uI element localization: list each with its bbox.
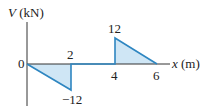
origin-label: 0 [18,56,25,71]
shear-diagram: V (kN) 0 2 −12 12 4 6 x (m) [0,0,208,106]
x-axis-label: x (m) [171,56,200,71]
tick-label-6: 6 [153,68,160,83]
tick-label-2: 2 [67,47,74,62]
value-label-12: 12 [108,21,121,36]
tick-label-4: 4 [111,68,118,83]
value-label-neg12: −12 [62,92,82,106]
v-axis-label: V (kN) [8,5,44,20]
